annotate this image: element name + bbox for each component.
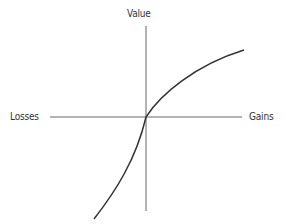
x-axis-label-gains: Gains: [249, 111, 273, 123]
x-axis-label-losses: Losses: [10, 111, 39, 123]
value-function-diagram: [0, 0, 286, 224]
y-axis-label-value: Value: [127, 8, 151, 20]
value-curve: [94, 50, 244, 219]
